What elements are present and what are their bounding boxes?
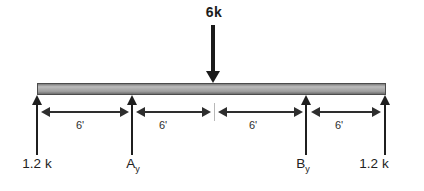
- dimension-arrow-segment-4: [311, 106, 381, 118]
- dimension-label-2: 6': [159, 119, 167, 131]
- reaction-label-left: 1.2 k: [22, 156, 51, 171]
- reaction-a-base: A: [126, 156, 135, 171]
- dimension-label-4: 6': [335, 119, 343, 131]
- dimension-arrow-segment-1: [41, 106, 129, 118]
- dimension-label-1: 6': [76, 119, 84, 131]
- right-arrow-head-icon: [372, 107, 381, 117]
- reaction-label-a: Ay: [126, 156, 140, 174]
- up-arrow-reaction-right-icon: [379, 95, 391, 155]
- midspan-tick: [214, 103, 215, 121]
- dimension-label-3: 6': [249, 119, 257, 131]
- up-arrow-shaft-icon: [384, 103, 386, 155]
- point-load-label: 6k: [206, 4, 223, 20]
- reaction-b-subscript: y: [305, 164, 310, 174]
- reaction-a-subscript: y: [135, 164, 140, 174]
- beam-member: [37, 83, 386, 95]
- dimension-line: [43, 111, 127, 113]
- beam-free-body-diagram: 6k 6' 6' 6' 6': [0, 0, 424, 191]
- up-arrow-reaction-b-icon: [300, 95, 312, 155]
- dimension-arrow-segment-3: [218, 106, 303, 118]
- up-arrow-reaction-a-icon: [126, 95, 138, 155]
- down-arrow-head-icon: [206, 71, 220, 83]
- reaction-label-right: 1.2 k: [359, 156, 388, 171]
- dimension-line: [313, 111, 379, 113]
- up-arrow-reaction-left-icon: [31, 95, 43, 155]
- reaction-b-base: B: [296, 156, 305, 171]
- dimension-line: [220, 111, 301, 113]
- down-arrow-shaft-icon: [211, 25, 215, 72]
- right-arrow-head-icon: [202, 107, 211, 117]
- dimension-arrow-segment-2: [136, 106, 211, 118]
- up-arrow-shaft-icon: [131, 103, 133, 155]
- up-arrow-shaft-icon: [36, 103, 38, 155]
- right-arrow-head-icon: [294, 107, 303, 117]
- dimension-line: [138, 111, 209, 113]
- right-arrow-head-icon: [120, 107, 129, 117]
- reaction-label-b: By: [296, 156, 310, 174]
- up-arrow-shaft-icon: [305, 103, 307, 155]
